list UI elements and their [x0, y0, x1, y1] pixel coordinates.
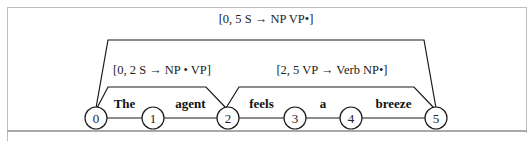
word-feels: feels — [249, 96, 274, 111]
node-label-4: 4 — [348, 111, 355, 126]
node-label-1: 1 — [150, 111, 157, 126]
chart-parse-diagram: [0, 5 S → NP VP•][0, 2 S → NP • VP][2, 5… — [0, 0, 531, 141]
node-label-5: 5 — [433, 111, 440, 126]
node-label-2: 2 — [225, 111, 232, 126]
node-label-3: 3 — [292, 111, 299, 126]
word-agent: agent — [175, 96, 206, 111]
word-breeze: breeze — [376, 96, 412, 111]
word-the: The — [114, 96, 136, 111]
arcs-group: [0, 5 S → NP VP•][0, 2 S → NP • VP][2, 5… — [96, 12, 436, 108]
node-label-0: 0 — [93, 111, 100, 126]
arc-label-0-5: [0, 5 S → NP VP•] — [219, 12, 314, 26]
arc-label-0-2: [0, 2 S → NP • VP] — [113, 63, 211, 77]
arc-label-2-5: [2, 5 VP → Verb NP•] — [276, 63, 387, 77]
word-a: a — [320, 96, 327, 111]
